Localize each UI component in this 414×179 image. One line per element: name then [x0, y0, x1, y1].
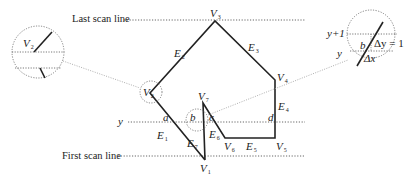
intersection-b-label: b — [190, 112, 196, 123]
intersection-a-label: a — [163, 112, 169, 123]
vertex-v1-label: V1 — [200, 163, 211, 175]
edge-e1-label: E1 — [157, 130, 168, 142]
edge-e7-label: E7 — [187, 138, 198, 150]
last-scan-line-label: Last scan line — [72, 14, 130, 25]
edge-e5-label: E5 — [246, 141, 257, 153]
vertex-v6-label: V6 — [224, 141, 235, 153]
y-scan-line-label: y — [118, 116, 123, 127]
left-inset — [12, 26, 64, 78]
vertex-v4-label: V4 — [277, 72, 288, 84]
inset-v2-label: V2 — [23, 38, 34, 50]
inset-delta-y-label: Δy = 1 — [374, 38, 404, 49]
vertex-v3-label: V3 — [210, 8, 221, 20]
edge-e3-label: E3 — [248, 42, 259, 54]
inset-delta-x-label: Δx — [364, 53, 375, 64]
edge-e4-label: E4 — [278, 101, 289, 113]
intersection-c-label: c — [209, 112, 214, 123]
vertex-v2-label: V2 — [143, 87, 154, 99]
intersection-d-label: d — [268, 112, 274, 123]
edge-e6-label: E6 — [209, 129, 220, 141]
inset-y-label: y — [337, 48, 342, 59]
inset-y-plus-1-label: y+1 — [327, 28, 345, 39]
left-leader-line — [63, 61, 140, 88]
scan-line-polygon-diagram: Last scan line First scan line y V1 V2 V… — [0, 0, 414, 179]
inset-b-label: b — [360, 40, 366, 51]
vertex-v7-label: V7 — [198, 91, 209, 103]
vertex-v5-label: V5 — [276, 141, 287, 153]
edge-e2-label: E2 — [174, 48, 185, 60]
first-scan-line-label: First scan line — [62, 151, 121, 162]
